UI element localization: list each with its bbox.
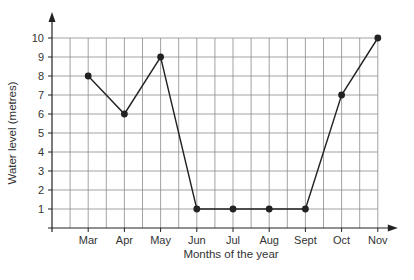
x-axis-arrow-icon	[388, 225, 398, 232]
x-tick-label: Jul	[226, 234, 240, 246]
x-axis-ticks: MarAprMayJunJulAugSeptOctNov	[79, 228, 388, 246]
data-point-marker	[374, 35, 381, 42]
x-tick-label: May	[150, 234, 171, 246]
y-tick-label: 4	[38, 146, 44, 158]
y-tick-label: 1	[38, 203, 44, 215]
x-tick-label: Apr	[116, 234, 133, 246]
axes	[48, 12, 398, 232]
x-tick-label: Sept	[294, 234, 317, 246]
data-point-marker	[266, 206, 273, 213]
x-tick-label: Mar	[79, 234, 98, 246]
y-tick-label: 8	[38, 70, 44, 82]
data-point-marker	[302, 206, 309, 213]
y-tick-label: 10	[32, 32, 44, 44]
y-tick-label: 5	[38, 127, 44, 139]
y-axis-ticks: 12345678910	[32, 32, 52, 215]
x-tick-label: Nov	[368, 234, 388, 246]
y-tick-label: 7	[38, 89, 44, 101]
data-point-marker	[193, 206, 200, 213]
y-tick-label: 9	[38, 51, 44, 63]
data-point-marker	[230, 206, 237, 213]
y-tick-label: 3	[38, 165, 44, 177]
y-axis-arrow-icon	[49, 12, 56, 22]
data-point-marker	[338, 92, 345, 99]
x-tick-label: Oct	[333, 234, 350, 246]
data-point-marker	[121, 111, 128, 118]
y-axis-title: Water level (metres)	[6, 81, 18, 184]
x-tick-label: Aug	[259, 234, 279, 246]
x-tick-label: Jun	[188, 234, 206, 246]
data-point-marker	[85, 73, 92, 80]
y-tick-label: 2	[38, 184, 44, 196]
data-point-marker	[157, 54, 164, 61]
x-axis-title: Months of the year	[183, 248, 278, 260]
water-level-line-chart: 12345678910 MarAprMayJunJulAugSeptOctNov…	[0, 0, 414, 280]
y-tick-label: 6	[38, 108, 44, 120]
